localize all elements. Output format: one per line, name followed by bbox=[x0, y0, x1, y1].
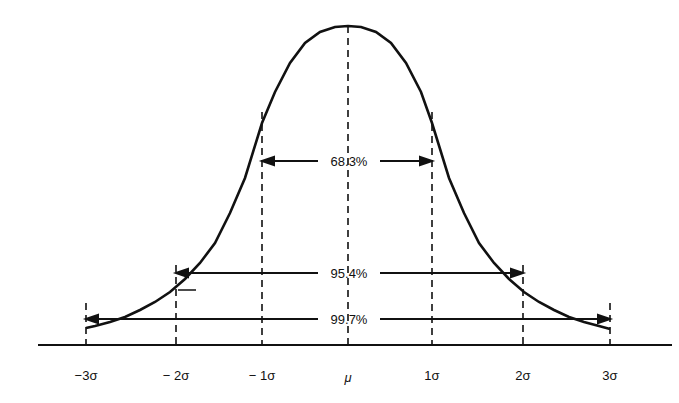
tick-minus2: − 2σ bbox=[163, 368, 189, 383]
label-99: 99.7% bbox=[331, 312, 368, 327]
tick-plus3: 3σ bbox=[602, 368, 617, 383]
tick-minus3: −3σ bbox=[75, 368, 98, 383]
normal-distribution-chart: 68.3% 95.4% 99.7% −3σ − 2σ − 1σ μ 1σ 2σ … bbox=[0, 0, 679, 403]
tick-mu: μ bbox=[343, 370, 351, 385]
tick-plus1: 1σ bbox=[424, 368, 439, 383]
label-95: 95.4% bbox=[331, 266, 368, 281]
tick-plus2: 2σ bbox=[515, 368, 530, 383]
label-68: 68.3% bbox=[331, 154, 368, 169]
tick-minus1: − 1σ bbox=[249, 368, 275, 383]
